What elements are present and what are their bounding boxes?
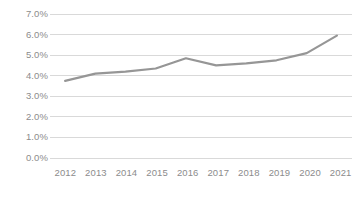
x-axis-tick-label: 2015 — [142, 167, 173, 183]
x-axis-tick-label: 2021 — [325, 167, 356, 183]
y-axis-tick-label: 1.0% — [2, 132, 48, 142]
x-axis: 2012201320142015201620172018201920202021 — [50, 167, 356, 183]
x-axis-tick-label: 2016 — [172, 167, 203, 183]
y-axis-tick-label: 5.0% — [2, 50, 48, 60]
data-line — [65, 36, 337, 81]
x-axis-tick-label: 2020 — [295, 167, 326, 183]
y-axis-tick-label: 6.0% — [2, 30, 48, 40]
data-series-group — [65, 36, 337, 81]
y-axis-tick-label: 0.0% — [2, 153, 48, 163]
gridlines-group — [50, 14, 352, 158]
x-axis-tick-label: 2014 — [111, 167, 142, 183]
x-axis-tick-label: 2018 — [234, 167, 265, 183]
x-axis-tick-label: 2012 — [50, 167, 81, 183]
y-axis-tick-label: 7.0% — [2, 9, 48, 19]
x-axis-tick-label: 2013 — [81, 167, 112, 183]
x-axis-tick-label: 2019 — [264, 167, 295, 183]
y-axis-tick-label: 3.0% — [2, 91, 48, 101]
line-chart: 7.0%6.0%5.0%4.0%3.0%2.0%1.0%0.0% 2012201… — [0, 0, 360, 199]
y-axis-tick-label: 2.0% — [2, 112, 48, 122]
y-axis-tick-label: 4.0% — [2, 71, 48, 81]
x-axis-tick-label: 2017 — [203, 167, 234, 183]
y-axis: 7.0%6.0%5.0%4.0%3.0%2.0%1.0%0.0% — [0, 0, 48, 199]
